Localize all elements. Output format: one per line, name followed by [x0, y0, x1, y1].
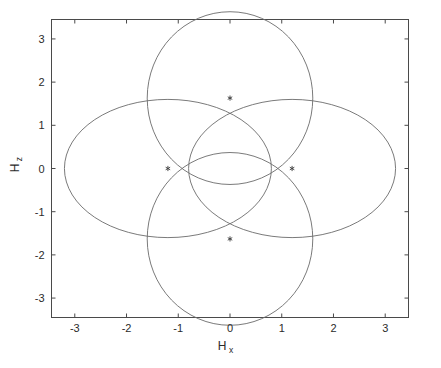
x-tick-label: -1 [173, 322, 183, 334]
y-axis-title-subscript: z [14, 157, 24, 161]
x-tick-label: -3 [70, 322, 80, 334]
x-tick-label: 1 [279, 322, 285, 334]
y-axis-title-text: H [8, 164, 22, 173]
y-tick-label: -3 [35, 292, 45, 304]
y-tick-label: 0 [38, 163, 44, 175]
y-tick-label: 3 [38, 33, 44, 45]
x-tick-label: 3 [382, 322, 388, 334]
x-axis-title-text: H [218, 339, 227, 353]
x-tick-label: 0 [227, 322, 233, 334]
y-tick-label: 1 [38, 119, 44, 131]
y-tick-label: -1 [35, 206, 45, 218]
y-tick-label: -2 [35, 249, 45, 261]
y-tick-label: 2 [38, 76, 44, 88]
x-tick-label: 2 [330, 322, 336, 334]
x-tick-label: -2 [122, 322, 132, 334]
figure-container: -3-2-10123 -3-2-10123 H x H z [0, 0, 441, 368]
scatter-plot: -3-2-10123 -3-2-10123 H x H z [0, 0, 441, 368]
